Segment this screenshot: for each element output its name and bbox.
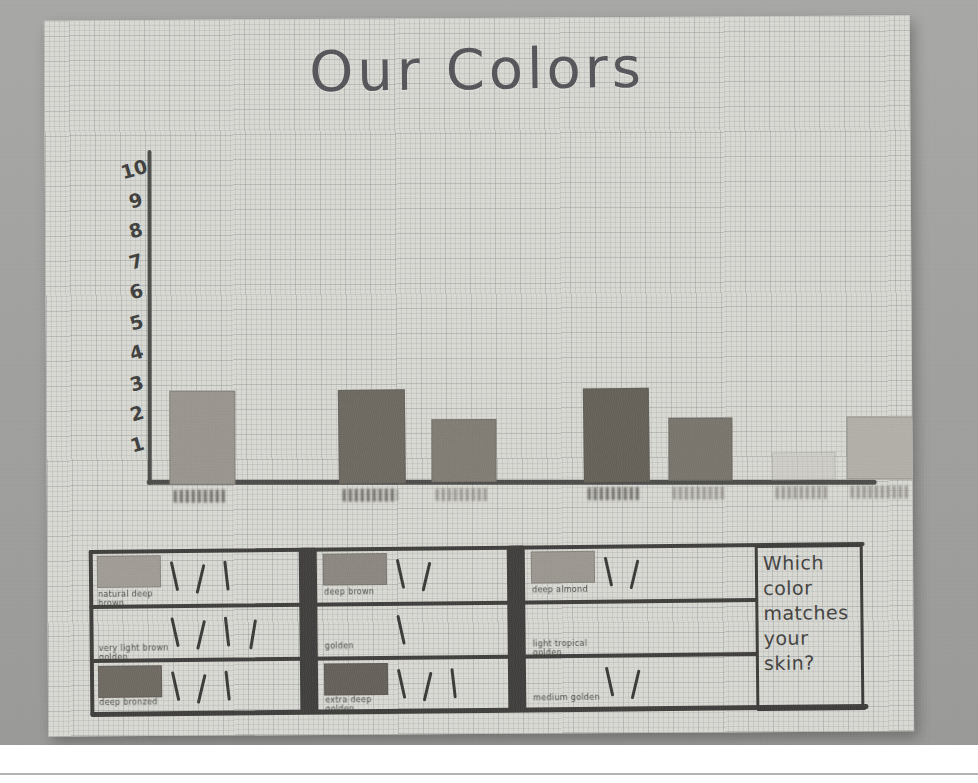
question-box-left-rule [755,545,760,710]
scan-bottom-strip [0,745,978,783]
x-label-6 [776,486,828,499]
color-swatch [324,663,388,696]
question-box: Which color matches your skin? [755,544,865,709]
bar-5 [668,418,732,481]
tally-mark [196,564,206,594]
tally-table: natural deep browndeep browndeep almondv… [87,542,867,718]
tally-mark [422,562,432,592]
swatch-label: golden [325,641,395,651]
x-label-3 [436,488,489,501]
bar-7 [846,416,914,479]
bar-3 [431,419,496,482]
x-label-7 [851,485,909,498]
tally-mark [224,617,230,647]
photo-background: Our Colors 10987654321 natural deep brow… [0,0,978,745]
color-swatch [323,553,387,586]
color-swatch [98,665,162,698]
tally-mark [423,672,433,702]
bar-2 [338,389,406,483]
tally-mark [605,667,614,697]
swatch-label: deep bronzed [99,697,169,707]
poster: Our Colors 10987654321 natural deep brow… [44,15,914,736]
color-swatch [531,551,595,584]
tally-mark [249,619,257,649]
tally-mark [604,557,613,587]
swatch-label: deep almond [532,585,602,595]
tally-mark [197,674,207,704]
x-label-4 [588,487,642,500]
tally-mark [396,615,405,645]
x-label-1 [174,490,228,503]
tally-mark [223,561,229,591]
tally-mark [224,671,230,701]
tally-mark [630,559,640,589]
tally-row-rule-2 [90,652,758,663]
bar-6 [771,452,835,481]
x-label-2 [343,488,398,501]
color-swatch [97,555,161,588]
tally-mark [170,617,179,647]
tally-mark [170,561,179,591]
tally-column-divider-1 [299,548,319,714]
tally-mark [397,669,406,699]
tally-mark [171,671,180,701]
scan-bottom-rule [0,773,978,775]
swatch-label: deep brown [324,587,394,597]
bar-1 [169,390,235,484]
tally-mark [450,668,456,698]
x-label-5 [673,487,725,500]
swatch-label: medium golden [533,693,603,703]
tally-row-rule-1 [89,598,757,609]
question-box-top-rule [755,544,863,548]
tally-mark [396,559,405,589]
bar-4 [583,387,650,481]
tally-mark [631,669,641,699]
bars-layer [44,15,913,482]
question-text: Which color matches your skin? [763,550,864,676]
tally-column-divider-2 [507,546,527,712]
tally-mark [196,620,206,650]
tally-left-rule [89,550,95,716]
